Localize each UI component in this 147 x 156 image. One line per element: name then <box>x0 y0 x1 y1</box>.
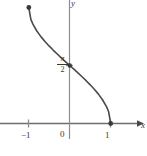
y-axis-label: y <box>71 0 75 8</box>
x-tick-label-neg-one: −1 <box>21 131 31 140</box>
curve-point-right-endpoint <box>108 121 113 126</box>
curve-point-left-endpoint <box>26 5 31 10</box>
pi-half-denominator: 2 <box>56 65 69 74</box>
pi-half-numerator: π <box>56 55 69 64</box>
y-tick-label-pi-half: π 2 <box>56 55 69 74</box>
arccos-graph-figure: −1 0 1 x y π 2 <box>0 0 147 156</box>
x-axis-label: x <box>141 121 145 130</box>
origin-label-zero: 0 <box>60 130 65 139</box>
x-tick-label-one: 1 <box>105 131 110 140</box>
